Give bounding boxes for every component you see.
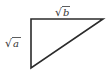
label-sqrt-a: √ a	[5, 37, 21, 50]
radical-sign: √	[55, 6, 63, 19]
var-b: b	[63, 7, 69, 18]
radical-sign: √	[5, 37, 13, 50]
right-triangle	[31, 19, 103, 68]
var-a: a	[13, 38, 19, 49]
triangle-diagram: √ b √ a	[0, 0, 107, 75]
label-sqrt-b: √ b	[55, 6, 70, 19]
